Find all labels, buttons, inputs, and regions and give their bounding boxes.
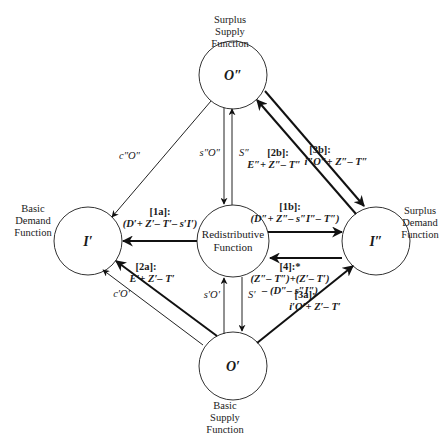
surplus-demand-caption-3: Function [401,229,439,240]
edge-3b-expr: i″O″+ Z″– T″ [304,156,367,167]
edge-2b-expr: E″+ Z″– T″ [246,159,301,170]
basic-demand-caption-3: Function [14,227,52,238]
edge-1b-tag: [1b]: [279,201,301,212]
edge-4-expr-1: (Z″– T″)+(Z′– T′) [251,273,330,285]
basic-supply-caption-3: Function [206,424,244,435]
edge-1a-tag: [1a]: [150,206,171,217]
edge-1a-expr: (D′+ Z′– T′– s′I′) [123,218,198,230]
edge-s2o2-label: s″O″ [200,147,221,158]
surplus-demand-symbol: I″ [368,234,382,249]
edge-2a-expr: E′+ Z′– T′ [128,273,174,284]
basic-supply-caption-2: Supply [210,412,241,423]
surplus-demand-caption-2: Demand [402,217,438,228]
surplus-supply-caption-3: Function [211,38,249,49]
surplus-supply-caption-2: Supply [215,26,246,37]
edge-3a-tag: [3a]: [295,289,316,300]
basic-demand-symbol: I′ [82,234,92,249]
basic-demand-caption-1: Basic [21,203,45,214]
surplus-supply-caption-1: Surplus [214,14,246,25]
edge-4-tag: [4]:* [280,261,301,272]
edge-s1-label: S′ [248,289,256,300]
basic-supply-caption-1: Basic [213,400,237,411]
edge-3b-tag: [3b]: [309,144,331,155]
edge-2b-tag: [2b]: [267,147,289,158]
edge-3a-expr: i′O′+ Z′– T′ [289,301,341,312]
edge-c1o1-label: c′O′ [113,288,131,299]
basic-supply-symbol: O′ [226,359,240,374]
edge-s1o1-label: s′O′ [204,289,221,300]
basic-demand-caption-2: Demand [15,215,51,226]
edge-2a-tag: [2a]: [136,261,157,272]
redistributive-label-1: Redistributive [202,228,264,240]
surplus-supply-symbol: O″ [224,68,242,83]
edge-1b-expr: (D″+ Z″– s″I″– T″) [251,213,340,225]
edge-c2o2-label: c″O″ [119,150,141,161]
flow-diagram: O″ I′ I″ O′ Redistributive Function Surp… [0,0,444,438]
redistributive-label-2: Function [213,241,253,253]
edge-s2-label: S″ [239,147,249,158]
surplus-demand-caption-1: Surplus [404,205,436,216]
